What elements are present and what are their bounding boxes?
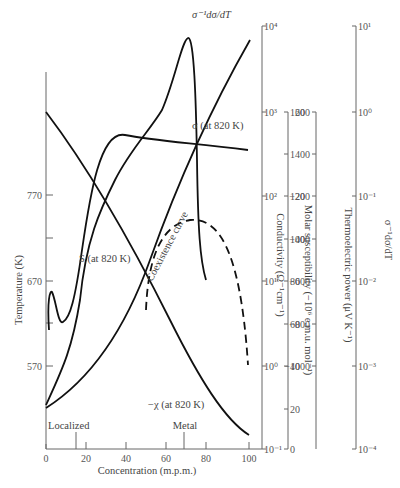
susc-axis-label: Molar susceptibility (−10⁶ e.m.u. mol⁻¹) [302,205,314,376]
x-tick-100: 100 [242,453,257,464]
localized-label: Localized [48,420,90,431]
dsigma-axis: 10¹ 10⁰ 10⁻¹ 10⁻² 10⁻³ 10⁻⁴ σ⁻¹dσ/dT [352,21,394,455]
thermo-tick: 200 [295,107,310,118]
susc-tick: 20 [290,404,300,415]
thermo-axis-label: Thermoelectric power (μV K⁻¹) [342,208,354,343]
dsig-tick: 10⁻¹ [358,191,376,202]
cond-tick: 10² [264,191,277,202]
cond-tick: 10³ [264,107,277,118]
temp-tick-770: 770 [27,190,42,201]
temp-tick-670: 670 [27,276,42,287]
susc-tick: 140 [290,149,305,160]
thermo-tick: −1000 [284,361,310,372]
coexistence-label: Coexistence curve [144,209,190,283]
sigma-curve [46,40,250,408]
x-tick-60: 60 [161,453,171,464]
thermo-tick: 0 [305,149,310,160]
dsig-tick: 10⁻³ [358,361,376,372]
cond-tick: 10⁴ [264,21,278,32]
conductivity-axis: 10⁴ 10³ 10² 10¹ 10⁰ 10⁻¹ Conductivity (Ω… [262,21,286,455]
dsig-tick: 10⁻² [358,276,376,287]
temperature-axis: 770 670 570 Temperature (K) [13,72,53,449]
dsig-tick: 10⁻⁴ [358,444,377,455]
cond-tick: 10⁻¹ [264,444,282,455]
temp-tick-570: 570 [27,361,42,372]
x-tick-80: 80 [201,453,211,464]
susc-tick: 0 [290,444,295,455]
thermo-tick: −200 [289,191,310,202]
thermo-tick: −400 [289,234,310,245]
thermo-tick: −600 [289,276,310,287]
dsigma-curve-label: σ⁻¹dσ/dT [192,9,232,20]
dsig-tick: 10¹ [358,21,371,32]
cond-axis-label: Conductivity (Ω⁻¹cm⁻¹) [274,213,286,317]
temp-axis-label: Temperature (K) [13,254,25,325]
x-tick-20: 20 [81,453,91,464]
chart: 0 20 40 60 80 100 Concentration (m.p.m.)… [0,0,400,488]
x-axis-label: Concentration (m.p.m.) [98,465,197,477]
cond-tick: 10⁰ [264,361,278,372]
x-axis: 0 20 40 60 80 100 Concentration (m.p.m.)… [44,420,263,477]
dsig-axis-label: σ⁻¹dσ/dT [383,220,394,261]
metal-label: Metal [173,420,198,431]
chi-curve-label: −χ (at 820 K) [148,399,205,411]
x-tick-0: 0 [44,453,49,464]
s-curve [48,135,248,330]
s-curve-label: S (at 820 K) [79,253,131,265]
dsig-tick: 10⁰ [358,107,372,118]
coexistence-curve [146,220,248,365]
x-tick-40: 40 [121,453,131,464]
thermo-tick: −800 [289,319,310,330]
sigma-curve-label: σ (at 820 K) [192,120,244,132]
